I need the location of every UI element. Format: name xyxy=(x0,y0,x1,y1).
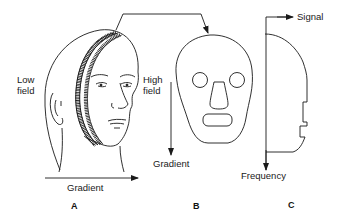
mouth-cavity xyxy=(203,114,232,126)
diagram-drawing xyxy=(0,0,343,219)
gradient-label-b: Gradient xyxy=(153,158,189,169)
projection-profile xyxy=(265,34,307,152)
right-eye-socket xyxy=(230,73,245,88)
panel-label-c: C xyxy=(288,200,295,210)
frequency-axis-arrow xyxy=(266,17,286,170)
low-field-label: Low field xyxy=(17,74,34,96)
low-field-line2: field xyxy=(17,85,34,96)
panel-label-a: A xyxy=(71,201,78,211)
left-eye-socket xyxy=(193,73,208,88)
gradient-label-a: Gradient xyxy=(67,182,103,193)
low-field-line1: Low xyxy=(17,74,34,85)
high-field-line2: field xyxy=(143,85,163,96)
nasal-cavity xyxy=(210,82,228,109)
skull-section xyxy=(176,35,253,143)
frequency-label: Frequency xyxy=(241,170,286,181)
mri-projection-diagram: Low field High field Gradient Gradient S… xyxy=(0,0,343,219)
panel-label-b: B xyxy=(193,201,200,211)
slice-to-section-arrow xyxy=(116,14,208,33)
head-drawing xyxy=(45,30,138,172)
high-field-line1: High xyxy=(143,74,163,85)
high-field-label: High field xyxy=(143,74,163,96)
signal-label: Signal xyxy=(297,11,323,22)
